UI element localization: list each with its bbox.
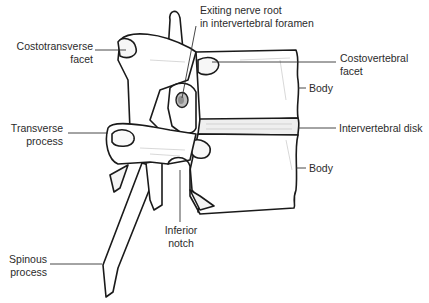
label-inferior-notch: Inferior notch [164,224,198,249]
label-spinous-process: Spinous process [9,253,47,278]
vertebrae-diagram: Exiting nerve root in intervertebral for… [0,0,429,303]
intervertebral-disk-shape [198,118,299,135]
label-costotransverse-facet: Costotransverse facet [17,40,93,65]
label-exiting-nerve-root: Exiting nerve root in intervertebral for… [200,4,314,29]
label-intervertebral-disk: Intervertebral disk [339,122,422,135]
label-body-lower: Body [309,162,333,175]
label-costovertebral-facet: Costovertebral facet [340,52,408,77]
label-body-upper: Body [309,82,333,95]
label-transverse-process: Transverse process [11,122,63,147]
